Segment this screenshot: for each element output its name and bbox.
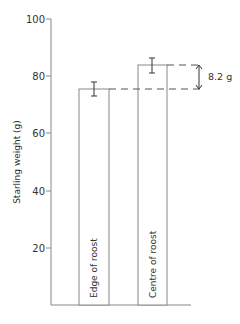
y-ticks: 100 80 60 40 20 <box>26 14 51 254</box>
category-label-centre: Centre of roost <box>148 230 158 298</box>
category-label-edge: Edge of roost <box>89 238 99 298</box>
tick-label-80: 80 <box>32 71 45 82</box>
y-axis-label: Starling weight (g) <box>12 120 22 204</box>
bar-chart: 100 80 60 40 20 Starling weight (g) 8.2 … <box>0 0 240 324</box>
difference-annotation: 8.2 g <box>208 71 232 82</box>
tick-label-20: 20 <box>32 243 45 254</box>
difference-arrow-icon <box>196 65 202 89</box>
tick-label-60: 60 <box>32 128 45 139</box>
tick-label-100: 100 <box>26 14 45 25</box>
tick-label-40: 40 <box>32 186 45 197</box>
